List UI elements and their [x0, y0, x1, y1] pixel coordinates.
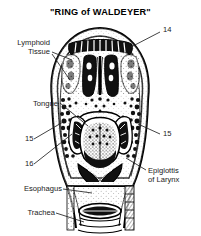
- adenoid-band: [69, 40, 133, 55]
- tracheal-rings: [78, 218, 122, 233]
- label-16: 16: [25, 159, 33, 168]
- laryngeal-inlet: [79, 204, 121, 219]
- illustration-canvas: [0, 0, 201, 236]
- label-epiglottis-line1: Epiglottis: [148, 166, 179, 175]
- tongue: [80, 118, 120, 169]
- leader-14: [131, 32, 160, 47]
- laryngeal-cartilage-strip: [125, 186, 134, 230]
- nasal-choanae: [83, 55, 119, 96]
- label-tongue: Tongue: [2, 99, 58, 108]
- label-lymphoid-tissue-line2: Tissue: [2, 47, 50, 56]
- label-esophagus: Esophagus: [2, 184, 62, 193]
- label-14: 14: [163, 25, 171, 34]
- label-trachea: Trachea: [2, 208, 55, 217]
- label-epiglottis-line2: of Larynx: [148, 175, 179, 184]
- anatomy-figure: "RING of WALDEYER": [0, 0, 201, 236]
- label-15-left: 15: [25, 134, 33, 143]
- tubal-tonsil-left: [62, 55, 81, 95]
- tubal-tonsil-right: [120, 55, 139, 95]
- left-cartilage-strip: [67, 186, 74, 230]
- larynx-trachea-esophagus: [67, 186, 134, 233]
- label-lymphoid-tissue-line1: Lymphoid: [2, 38, 50, 47]
- label-15-right: 15: [163, 129, 171, 138]
